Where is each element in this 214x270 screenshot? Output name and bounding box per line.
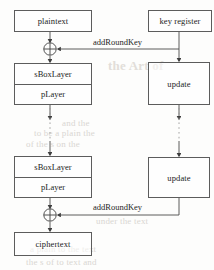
node-round-layers-top[interactable]: sBoxLayer pLayer — [14, 63, 92, 105]
node-sboxlayer-bottom[interactable]: sBoxLayer — [15, 157, 91, 178]
edge-label-addroundkey-bottom: addRoundKey — [93, 202, 142, 212]
node-player-bottom[interactable]: pLayer — [15, 178, 91, 198]
edge-label-addroundkey-top: addRoundKey — [93, 37, 142, 47]
node-player-top[interactable]: pLayer — [15, 85, 91, 105]
node-ciphertext[interactable]: ciphertext — [14, 232, 92, 256]
node-round-layers-bottom[interactable]: sBoxLayer pLayer — [14, 156, 92, 198]
node-plaintext[interactable]: plaintext — [14, 10, 92, 32]
node-ciphertext-label: ciphertext — [36, 239, 71, 249]
cipher-structure-diagram: the Art of and the to be a plain the of … — [0, 0, 214, 270]
node-key-register-label: key register — [159, 16, 200, 26]
node-update-bottom-label: update — [167, 173, 190, 183]
node-update-bottom[interactable]: update — [148, 157, 210, 198]
node-player-top-label: pLayer — [41, 89, 65, 99]
node-sboxlayer-bottom-label: sBoxLayer — [34, 162, 71, 172]
node-update-top-label: update — [167, 79, 190, 89]
node-sboxlayer-top[interactable]: sBoxLayer — [15, 64, 91, 85]
node-key-register[interactable]: key register — [148, 10, 212, 32]
node-plaintext-label: plaintext — [38, 16, 69, 26]
node-sboxlayer-top-label: sBoxLayer — [34, 69, 71, 79]
node-update-top[interactable]: update — [148, 62, 210, 105]
node-player-bottom-label: pLayer — [41, 182, 65, 192]
